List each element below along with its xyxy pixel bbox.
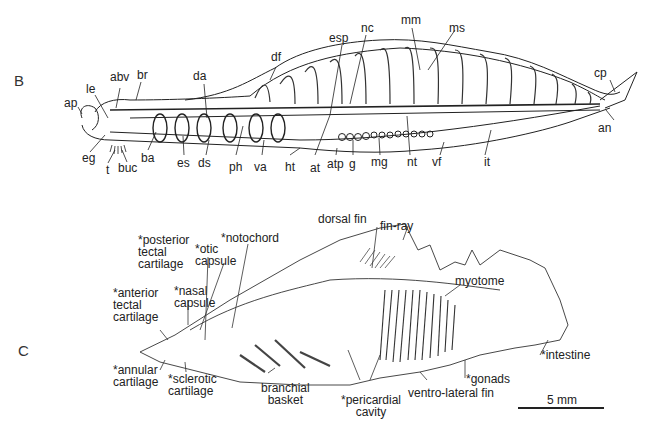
label-mg: mg xyxy=(371,156,388,168)
label-ba: ba xyxy=(141,152,154,164)
label-pericardial-cavity: *pericardial cavity xyxy=(341,394,401,418)
label-ht: ht xyxy=(285,161,295,173)
label-ventro-lateral-fin: ventro-lateral fin xyxy=(408,387,494,399)
label-nt: nt xyxy=(407,156,417,168)
label-notochord: *notochord xyxy=(221,232,279,244)
label-g: g xyxy=(349,158,356,170)
label-ap: ap xyxy=(64,97,77,109)
label-it: it xyxy=(484,156,490,168)
label-nc: nc xyxy=(361,22,374,34)
panel-label-b: B xyxy=(14,72,24,89)
label-eg: eg xyxy=(82,152,95,164)
label-myotome: myotome xyxy=(455,275,504,287)
label-t: t xyxy=(106,164,109,176)
label-gonads: *gonads xyxy=(466,373,510,385)
label-ds: ds xyxy=(198,157,211,169)
scale-bar-label: 5 mm xyxy=(547,394,577,406)
label-es: es xyxy=(177,157,190,169)
label-atp: atp xyxy=(327,158,344,170)
label-br: br xyxy=(137,69,148,81)
label-da: da xyxy=(193,70,206,82)
label-sclerotic-cartilage: *sclerotic cartilage xyxy=(168,373,217,397)
label-fin-ray: fin-ray xyxy=(380,220,413,232)
label-intestine: *intestine xyxy=(541,349,590,361)
label-buc: buc xyxy=(118,162,137,174)
label-va: va xyxy=(254,161,267,173)
label-dorsal-fin: dorsal fin xyxy=(318,213,367,225)
label-le: le xyxy=(86,83,95,95)
label-df: df xyxy=(271,51,281,63)
label-ms: ms xyxy=(449,22,465,34)
label-annular-cartilage: *annular cartilage xyxy=(113,364,158,388)
label-abv: abv xyxy=(110,71,129,83)
label-vf: vf xyxy=(432,156,441,168)
label-cp: cp xyxy=(594,67,607,79)
panel-label-c: C xyxy=(18,342,29,359)
label-esp: esp xyxy=(329,32,348,44)
label-an: an xyxy=(598,122,611,134)
label-nasal-capsule: *nasal capsule xyxy=(174,285,215,309)
label-posterior-tectal-cartilage: *posterior tectal cartilage xyxy=(138,234,189,270)
label-branchial-basket: branchial basket xyxy=(261,382,310,406)
label-otic-capsule: *otic capsule xyxy=(195,243,236,267)
label-anterior-tectal-cartilage: *anterior tectal cartilage xyxy=(113,287,158,323)
label-mm: mm xyxy=(401,14,421,26)
label-ph: ph xyxy=(229,161,242,173)
panel-b-drawing xyxy=(78,28,637,163)
label-at: at xyxy=(310,162,320,174)
